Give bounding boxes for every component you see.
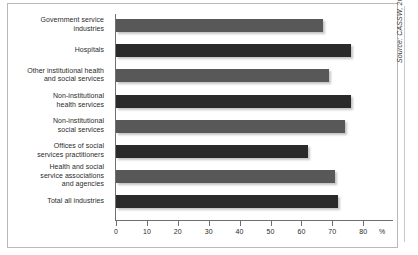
bar [116,195,338,208]
bar [116,145,308,158]
x-axis-tick-label: 20 [166,228,190,235]
figure-container: 01020304050607080 % Government servicein… [0,0,418,255]
category-label: Offices of socialservices practitioners [0,142,104,159]
x-axis-tick-label: 40 [228,228,252,235]
category-label: Non-institutionalsocial services [0,117,104,134]
x-axis-tick-label: 10 [135,228,159,235]
x-axis-tick [301,221,302,226]
bar [116,95,351,108]
x-axis-tick-label: 0 [104,228,128,235]
bar [116,19,323,32]
x-axis-tick [147,221,148,226]
category-label: Government serviceindustries [0,16,104,33]
category-label: Health and socialservice associationsand… [0,163,104,189]
x-axis-tick-label: 70 [320,228,344,235]
category-label: Other institutional healthand social ser… [0,67,104,84]
x-axis-tick [271,221,272,226]
x-axis-tick [178,221,179,226]
x-axis-tick-label: 50 [259,228,283,235]
x-axis-tick [240,221,241,226]
x-axis-tick [116,221,117,226]
x-axis-tick-label: 60 [289,228,313,235]
bar [116,44,351,57]
x-axis-tick-label: 80 [351,228,375,235]
category-label: Total all industries [0,197,104,206]
bar [116,120,345,133]
bar [116,170,335,183]
x-axis-tick [363,221,364,226]
x-axis-tick [209,221,210,226]
source-credit: Source: CASSW, 2001. In Critical Demand. [396,0,403,63]
source-divider [404,6,405,242]
x-axis-unit-label: % [379,228,385,235]
category-label: Non-institutionalhealth services [0,92,104,109]
x-axis-tick-label: 30 [197,228,221,235]
category-label: Hospitals [0,46,104,55]
chart-frame: 01020304050607080 % Government servicein… [7,3,398,248]
x-axis-line [115,220,393,221]
bar [116,69,329,82]
bar-chart-plot: 01020304050607080 % Government servicein… [8,4,399,249]
x-axis-tick [332,221,333,226]
